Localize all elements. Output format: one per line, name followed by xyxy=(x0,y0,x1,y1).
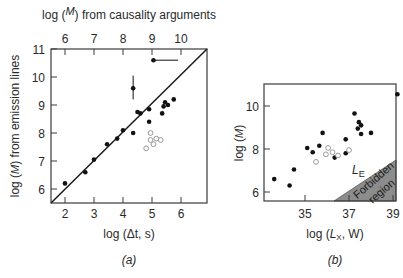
panel-a-reference-line xyxy=(51,49,207,203)
tick-label: 10 xyxy=(174,32,188,46)
tick-label: 5 xyxy=(149,207,156,221)
filled-data-point xyxy=(359,123,364,128)
filled-data-point xyxy=(343,137,348,142)
tick-label: 10 xyxy=(32,71,46,85)
tick-label: 6 xyxy=(38,183,45,197)
tick-label: 3 xyxy=(91,207,98,221)
open-data-point xyxy=(324,152,329,157)
filled-data-point xyxy=(160,111,165,116)
filled-data-point xyxy=(171,97,176,102)
filled-data-point xyxy=(359,132,364,137)
tick-label: 8 xyxy=(252,143,259,157)
panel-b-caption: (b) xyxy=(328,253,343,267)
filled-data-point xyxy=(147,107,152,112)
open-data-point xyxy=(148,131,153,136)
tick-label: 35 xyxy=(298,207,312,221)
open-data-point xyxy=(151,142,156,147)
panel-a-error-bars xyxy=(133,60,178,99)
panel-a-top-ticks: 678910 xyxy=(62,32,188,55)
panel-b-left-axis-title: log (M) xyxy=(232,125,246,162)
filled-data-point xyxy=(151,58,156,63)
tick-label: 6 xyxy=(178,207,185,221)
panel-a-left-axis-title: log (M) from emission lines xyxy=(8,55,22,198)
filled-data-point xyxy=(92,157,97,162)
filled-data-point xyxy=(292,167,297,172)
filled-data-point xyxy=(131,86,136,91)
filled-data-point xyxy=(115,136,120,141)
open-data-point xyxy=(314,160,319,165)
filled-data-point xyxy=(305,146,310,151)
filled-data-point xyxy=(395,92,400,97)
open-data-point xyxy=(158,138,163,143)
filled-data-point xyxy=(352,111,357,116)
tick-label: 6 xyxy=(252,186,259,200)
panel-a-bottom-axis-title: log (Δt, s) xyxy=(103,227,154,241)
panel-a-data-points xyxy=(63,58,176,186)
filled-data-point xyxy=(287,183,292,188)
tick-label: 2 xyxy=(62,207,69,221)
filled-data-point xyxy=(83,170,88,175)
panel-b-bottom-axis-title: log (LX, W) xyxy=(306,227,363,242)
filled-data-point xyxy=(105,142,110,147)
filled-data-point xyxy=(369,131,374,136)
figure: 23456 67891011 678910 log (M) from causa… xyxy=(0,0,403,278)
tick-label: 6 xyxy=(62,32,69,46)
open-data-point xyxy=(347,148,352,153)
filled-data-point xyxy=(310,150,315,155)
panel-a-caption: (a) xyxy=(122,253,137,267)
filled-data-point xyxy=(131,131,136,136)
filled-data-point xyxy=(147,120,152,125)
tick-label: 10 xyxy=(246,100,260,114)
filled-data-point xyxy=(317,143,322,148)
tick-label: 9 xyxy=(149,32,156,46)
filled-data-point xyxy=(272,177,277,182)
filled-data-point xyxy=(161,104,166,109)
tick-label: 39 xyxy=(386,207,400,221)
tick-label: 37 xyxy=(342,207,356,221)
filled-data-point xyxy=(166,103,171,108)
panel-a-x-ticks: 23456 xyxy=(62,197,185,221)
panel-b-scatter: 353739 6810 LE Forbidden region log (M) … xyxy=(232,84,400,267)
tick-label: 11 xyxy=(33,43,46,57)
filled-data-point xyxy=(356,126,361,131)
panel-a-top-axis-title: log (M) from causality arguments xyxy=(42,5,216,22)
tick-label: 8 xyxy=(120,32,127,46)
open-data-point xyxy=(144,146,149,151)
filled-data-point xyxy=(320,131,325,136)
tick-label: 7 xyxy=(91,32,98,46)
open-data-point xyxy=(330,150,335,155)
filled-data-point xyxy=(63,181,68,186)
panel-a-y-ticks: 67891011 xyxy=(32,43,57,197)
filled-data-point xyxy=(121,128,126,133)
tick-label: 4 xyxy=(120,207,127,221)
tick-label: 8 xyxy=(38,127,45,141)
tick-label: 7 xyxy=(38,155,45,169)
panel-b-y-ticks: 6810 xyxy=(246,100,270,200)
eddington-limit-label: LE xyxy=(352,163,365,179)
panel-a-scatter: 23456 67891011 678910 log (M) from causa… xyxy=(8,5,216,267)
open-data-point xyxy=(336,153,341,158)
tick-label: 9 xyxy=(38,99,45,113)
open-data-point xyxy=(326,146,331,151)
filled-data-point xyxy=(138,111,143,116)
